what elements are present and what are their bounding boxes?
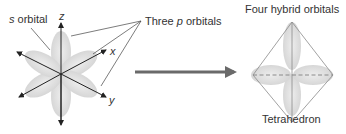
p-leader-y [101,21,141,86]
sp3-tetrahedron-figure [251,22,333,122]
z-axis-label: z [59,10,65,22]
y-axis-label: y [109,94,115,106]
s-orbital-leader [31,28,50,50]
tetrahedron-label: Tetrahedron [262,113,321,125]
sp-orbitals-figure [17,21,141,125]
x-axis-label: x [110,45,116,57]
s-orbital-label: s orbital [9,13,48,25]
hybrid-orbitals-title: Four hybrid orbitals [245,3,339,15]
p-orbitals-label: Three p orbitals [145,15,221,27]
